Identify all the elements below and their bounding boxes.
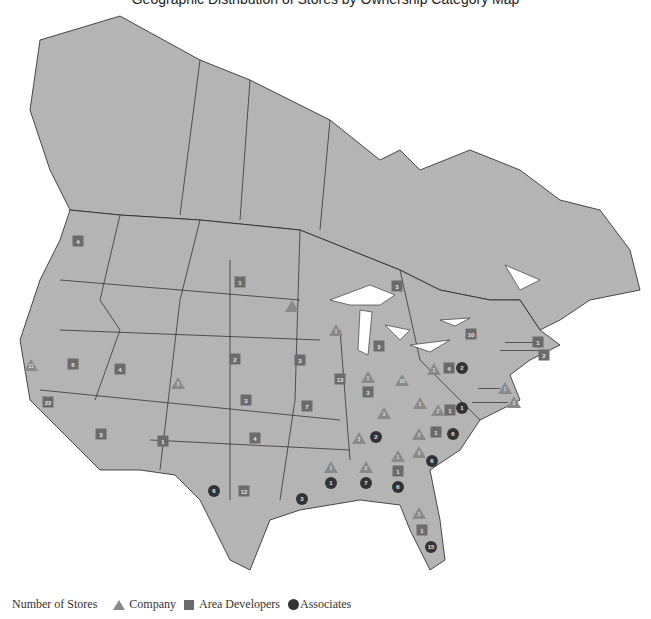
legend-company: Company bbox=[129, 597, 176, 612]
triangle-marker-minnesota bbox=[285, 300, 299, 312]
square-marker-nevada: 6 bbox=[68, 359, 79, 370]
triangle-marker-alabama: 2 bbox=[359, 461, 373, 473]
square-marker-iowa: 3 bbox=[295, 355, 306, 366]
marker-value: 2 bbox=[362, 465, 370, 471]
square-marker-oklahoma: 4 bbox=[250, 433, 261, 444]
triangle-marker-delaware: 1 bbox=[498, 382, 512, 394]
square-marker-new-mexico: 1 bbox=[158, 436, 169, 447]
square-marker-north-dakota: 1 bbox=[235, 277, 246, 288]
marker-value: 1 bbox=[327, 465, 335, 471]
square-marker-nebraska: 2 bbox=[230, 354, 241, 365]
circle-marker-tennessee: 2 bbox=[370, 431, 382, 443]
legend-area-developers: Area Developers bbox=[199, 597, 280, 612]
triangle-marker-colorado: 3 bbox=[171, 377, 185, 389]
marker-value: 1 bbox=[416, 401, 424, 407]
leader-line-delaware bbox=[478, 388, 500, 389]
marker-value: 1 bbox=[415, 511, 423, 517]
triangle-marker-tennessee: 3 bbox=[352, 432, 366, 444]
square-icon bbox=[184, 600, 194, 610]
square-marker-michigan: 3 bbox=[374, 341, 385, 352]
circle-marker-texas: 6 bbox=[208, 485, 220, 497]
marker-value: 3 bbox=[174, 381, 182, 387]
circle-marker-pennsylvania: 2 bbox=[456, 362, 468, 374]
legend-associates: Associates bbox=[300, 597, 351, 612]
marker-value: 2 bbox=[434, 408, 442, 414]
square-marker-indiana: 3 bbox=[363, 387, 374, 398]
marker-value: 3 bbox=[510, 400, 518, 406]
square-marker-utah: 4 bbox=[115, 364, 126, 375]
triangle-marker-kentucky: 3 bbox=[377, 407, 391, 419]
square-marker-washington: 4 bbox=[73, 236, 84, 247]
triangle-icon bbox=[113, 600, 125, 610]
square-marker-virginia: 1 bbox=[445, 405, 456, 416]
square-marker-new-york: 10 bbox=[466, 329, 477, 340]
square-marker-florida: 1 bbox=[417, 525, 428, 536]
square-marker-missouri: 7 bbox=[302, 401, 313, 412]
legend: Number of Stores Company Area Developers… bbox=[12, 597, 351, 612]
triangle-marker-georgia: 1 bbox=[391, 450, 405, 462]
triangle-marker-ohio: 10 bbox=[395, 374, 409, 386]
triangle-marker-south-carolina: 3 bbox=[412, 446, 426, 458]
triangle-marker-wisconsin: 1 bbox=[329, 324, 343, 336]
square-marker-illinois: 13 bbox=[335, 374, 346, 385]
legend-title: Number of Stores bbox=[12, 597, 97, 612]
marker-value: 10 bbox=[398, 378, 406, 384]
circle-marker-north-carolina: 6 bbox=[447, 428, 459, 440]
marker-value: 1 bbox=[332, 328, 340, 334]
circle-marker-south-carolina: 6 bbox=[426, 455, 438, 467]
marker-value: 3 bbox=[355, 436, 363, 442]
triangle-marker-north-carolina: 2 bbox=[412, 428, 426, 440]
circle-marker-louisiana: 3 bbox=[296, 493, 308, 505]
circle-marker-georgia: 6 bbox=[392, 481, 404, 493]
square-marker-california: 22 bbox=[43, 397, 54, 408]
circle-marker-alabama: 7 bbox=[360, 477, 372, 489]
square-marker-ontario: 3 bbox=[392, 281, 403, 292]
circle-marker-florida: 15 bbox=[425, 541, 437, 553]
marker-value: 3 bbox=[380, 411, 388, 417]
square-marker-massachusetts: 1 bbox=[533, 337, 544, 348]
square-marker-north-carolina: 1 bbox=[431, 427, 442, 438]
leader-line-maryland bbox=[472, 402, 508, 403]
leader-line-massachusetts bbox=[505, 342, 533, 343]
leader-line-connecticut bbox=[500, 350, 540, 351]
marker-value: 1 bbox=[501, 386, 509, 392]
square-marker-georgia: 1 bbox=[393, 466, 404, 477]
north-america-map bbox=[0, 0, 651, 590]
triangle-marker-florida: 1 bbox=[412, 507, 426, 519]
triangle-marker-pennsylvania: 1 bbox=[427, 363, 441, 375]
square-marker-arizona: 3 bbox=[96, 429, 107, 440]
marker-value: 3 bbox=[415, 450, 423, 456]
triangle-marker-mississippi: 1 bbox=[324, 461, 338, 473]
triangle-marker-west-virginia: 1 bbox=[413, 397, 427, 409]
triangle-marker-indiana: 1 bbox=[361, 371, 375, 383]
circle-marker-mississippi: 1 bbox=[325, 477, 337, 489]
marker-value: 1 bbox=[394, 454, 402, 460]
marker-value: 1 bbox=[430, 367, 438, 373]
square-marker-kansas: 3 bbox=[241, 395, 252, 406]
marker-value: 2 bbox=[415, 432, 423, 438]
triangle-marker-maryland: 3 bbox=[507, 396, 521, 408]
marker-value: 1 bbox=[364, 375, 372, 381]
square-marker-texas: 12 bbox=[239, 486, 250, 497]
circle-marker-virginia: 1 bbox=[456, 402, 468, 414]
triangle-marker-virginia: 2 bbox=[431, 404, 445, 416]
triangle-marker-california: 11 bbox=[24, 359, 38, 371]
square-marker-connecticut: 2 bbox=[539, 350, 550, 361]
square-marker-pennsylvania: 4 bbox=[444, 363, 455, 374]
circle-icon bbox=[288, 599, 299, 610]
marker-value: 11 bbox=[27, 363, 35, 369]
